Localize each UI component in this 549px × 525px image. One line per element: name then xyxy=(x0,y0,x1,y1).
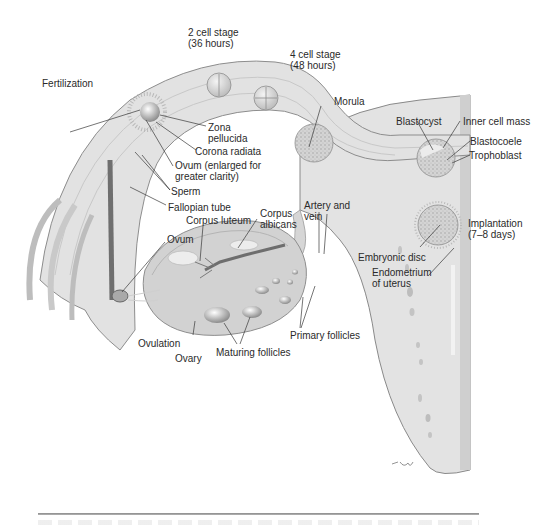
label-maturing-follicles: Maturing follicles xyxy=(216,347,290,358)
label-inner-cell-mass: Inner cell mass xyxy=(463,116,530,127)
label-four-cell-stage: 4 cell stage (48 hours) xyxy=(290,49,341,71)
label-embryonic-disc: Embryonic disc xyxy=(358,252,426,263)
label-two-cell-stage: 2 cell stage (36 hours) xyxy=(188,27,239,49)
label-morula: Morula xyxy=(334,96,365,107)
label-endometrium: Endometrium of uterus xyxy=(372,267,431,289)
label-zona-pellucida: Zona pellucida xyxy=(208,122,247,144)
embryology-diagram: Fertilization 2 cell stage (36 hours) 4 … xyxy=(0,0,549,525)
label-ovulation: Ovulation xyxy=(138,338,180,349)
artist-signature xyxy=(392,462,413,465)
label-fallopian-tube: Fallopian tube xyxy=(168,202,231,213)
label-primary-follicles: Primary follicles xyxy=(290,330,360,341)
ovary xyxy=(112,220,306,335)
label-ovum: Ovum xyxy=(167,234,194,245)
caption-cropped xyxy=(38,520,479,525)
caption-divider xyxy=(38,513,479,515)
label-corona-radiata: Corona radiata xyxy=(195,146,261,157)
label-ovary: Ovary xyxy=(175,353,202,364)
label-corpus-luteum: Corpus luteum xyxy=(186,215,251,226)
two-cell-embryo xyxy=(207,73,231,97)
label-sperm: Sperm xyxy=(171,186,200,197)
label-trophoblast: Trophoblast xyxy=(469,150,521,161)
label-blastocoele: Blastocoele xyxy=(470,136,522,147)
label-ovum-enlarged: Ovum (enlarged for greater clarity) xyxy=(175,160,261,182)
label-corpus-albicans: Corpus albicans xyxy=(260,208,297,230)
label-implantation: Implantation (7–8 days) xyxy=(468,218,522,240)
label-artery-and-vein: Artery and vein xyxy=(304,200,350,222)
four-cell-embryo xyxy=(254,86,278,110)
label-fertilization: Fertilization xyxy=(42,78,93,89)
label-blastocyst: Blastocyst xyxy=(396,116,442,127)
